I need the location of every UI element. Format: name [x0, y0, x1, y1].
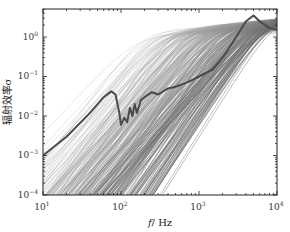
- y-tick-label: 10−1: [18, 69, 38, 81]
- x-tick-labels: 101 102 103 104: [34, 200, 283, 212]
- radiation-efficiency-chart: 100 10−1 10−2 10−3 10−4 101 102 103 104 …: [0, 0, 290, 232]
- y-tick-label: 10−2: [18, 109, 38, 121]
- x-tick-label: 103: [190, 200, 205, 212]
- y-tick-label: 10−4: [18, 188, 38, 200]
- y-tick-label: 10−3: [18, 148, 38, 160]
- y-tick-label: 100: [23, 30, 38, 42]
- y-axis-title: 辐射效率σ: [1, 78, 13, 125]
- y-tick-labels: 100 10−1 10−2 10−3 10−4: [18, 30, 38, 200]
- x-tick-label: 101: [34, 200, 49, 212]
- x-tick-label: 102: [112, 200, 127, 212]
- x-tick-label: 104: [268, 200, 283, 212]
- x-axis-title: f/ Hz: [147, 217, 172, 228]
